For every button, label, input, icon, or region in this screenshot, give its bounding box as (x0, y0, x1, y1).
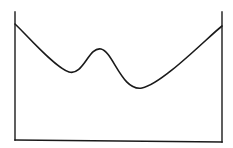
potential-curve (15, 24, 222, 88)
bottom-line (15, 140, 222, 142)
diagram-canvas (0, 0, 233, 148)
